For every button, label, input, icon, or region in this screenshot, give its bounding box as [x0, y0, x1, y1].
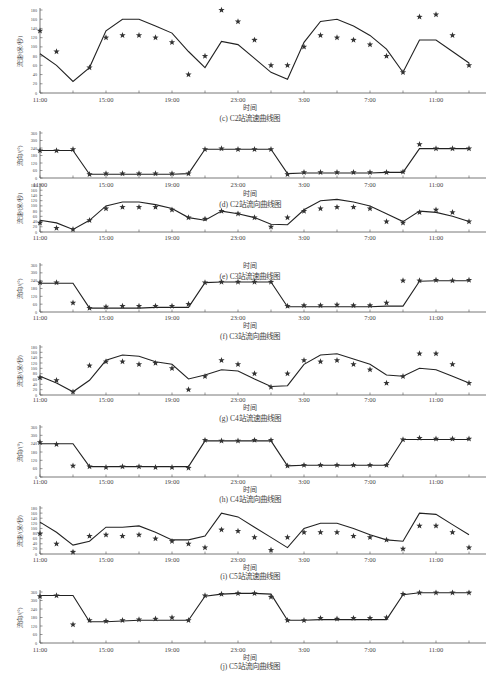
- observed-star-marker: [334, 616, 340, 622]
- observed-star-marker: [235, 590, 241, 596]
- y-tick-label: 120: [31, 624, 37, 629]
- y-tick-label: 0: [35, 641, 37, 646]
- observed-star-marker: [449, 589, 455, 595]
- model-line: [40, 593, 469, 622]
- y-axis-label: 流向/(°): [16, 607, 24, 627]
- y-tick-label: 360: [31, 590, 37, 595]
- observed-star-marker: [103, 618, 109, 624]
- x-tick-label: 23:00: [231, 646, 246, 653]
- x-tick-label: 15:00: [99, 646, 114, 653]
- y-tick-label: 240: [31, 607, 37, 612]
- x-axis-label: 时间: [243, 653, 257, 662]
- observed-star-marker: [284, 617, 290, 623]
- observed-star-marker: [416, 589, 422, 595]
- observed-star-marker: [136, 616, 142, 622]
- observed-star-marker: [169, 614, 175, 620]
- x-tick-label: 7:00: [364, 646, 376, 653]
- x-tick-label: 11:00: [429, 646, 444, 653]
- observed-star-marker: [53, 592, 59, 598]
- chart-j: 06012018024030036011:0015:0019:0023:003:…: [0, 0, 500, 681]
- chart-caption: (j) C5站流向曲线图: [220, 661, 280, 671]
- observed-star-marker: [466, 589, 472, 595]
- y-tick-label: 60: [33, 632, 37, 637]
- observed-star-marker: [433, 589, 439, 595]
- x-tick-label: 19:00: [165, 646, 180, 653]
- observed-star-marker: [119, 617, 125, 623]
- observed-star-marker: [70, 621, 76, 627]
- observed-star-marker: [400, 591, 406, 597]
- x-tick-label: 11:00: [33, 646, 48, 653]
- observed-star-marker: [218, 591, 224, 597]
- observed-star-marker: [301, 617, 307, 623]
- observed-star-marker: [251, 590, 257, 596]
- y-tick-label: 180: [31, 615, 37, 620]
- x-tick-label: 3:00: [298, 646, 310, 653]
- y-tick-label: 300: [31, 598, 37, 603]
- observed-star-marker: [202, 592, 208, 598]
